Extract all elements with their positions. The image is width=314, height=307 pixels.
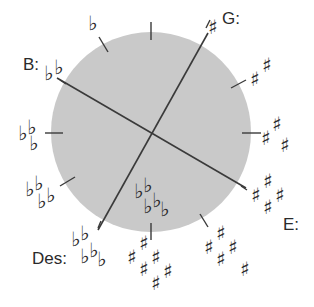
sharp-6f: ♯	[163, 259, 173, 283]
sharp-6c: ♯	[139, 257, 149, 281]
sharp-3a: ♯	[261, 126, 271, 150]
sharp-6d: ♯	[151, 245, 161, 269]
label-g: G:	[222, 9, 240, 28]
sharp-5c: ♯	[216, 247, 226, 271]
sharp-1: ♯	[208, 15, 218, 39]
label-b: B:	[23, 55, 39, 74]
sharp-2a: ♯	[250, 67, 260, 91]
sharp-4d: ♯	[275, 183, 285, 207]
sharp-6a: ♯	[127, 245, 137, 269]
sharp-4a: ♯	[251, 183, 261, 207]
flat-1: ♭	[88, 11, 97, 35]
flat-6e: ♭	[160, 197, 169, 221]
flat-3c: ♭	[29, 131, 38, 155]
sharp-5d: ♯	[228, 235, 238, 259]
sharp-2b: ♯	[262, 53, 272, 77]
sharp-4b: ♯	[263, 169, 273, 193]
flat-5e: ♭	[97, 247, 106, 271]
sharp-5a: ♯	[204, 235, 214, 259]
sharp-3c: ♯	[280, 133, 290, 157]
circle-of-fifths-diagram: ♭ ♭ ♭ ♭ ♭ ♭ ♭ ♭ ♭ ♭ ♭ ♭ ♭ ♭ ♭ ♭ ♭ ♭ ♭ ♭ …	[0, 0, 314, 307]
label-e: E:	[283, 215, 299, 234]
flat-4d: ♭	[46, 183, 55, 207]
flat-2a: ♭	[44, 61, 53, 85]
flat-2b: ♭	[54, 55, 63, 79]
sharp-4c: ♯	[263, 195, 273, 219]
sharp-6b: ♯	[139, 231, 149, 255]
sharp-6e: ♯	[151, 271, 161, 295]
label-des: Des:	[32, 249, 67, 268]
sharp-5b: ♯	[216, 221, 226, 245]
sharp-5e: ♯	[240, 257, 250, 281]
